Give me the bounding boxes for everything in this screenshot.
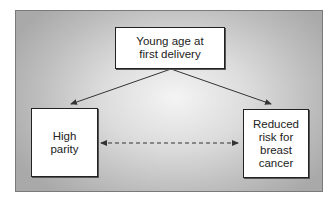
node-high-parity: High parity — [31, 108, 98, 177]
node-young-age-label: Young age at first delivery — [136, 35, 203, 61]
node-high-parity-label: High parity — [50, 130, 78, 156]
node-reduced-risk-label: Reduced risk for breast cancer — [253, 118, 299, 170]
node-reduced-risk: Reduced risk for breast cancer — [243, 109, 309, 178]
node-young-age: Young age at first delivery — [115, 27, 225, 69]
